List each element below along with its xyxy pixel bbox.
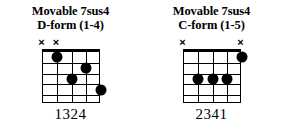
fret-line [184,84,240,85]
chord-title-d-form: Movable 7sus4 D-form (1-4) [32,4,110,32]
finger-dot [95,84,106,95]
muted-string-markers-c-form: ×× [183,38,241,49]
muted-string-x-icon: × [53,37,59,48]
muted-string-x-icon: × [179,37,185,48]
finger-dot [207,74,218,85]
fingering-numbers-d-form: 1324 [34,106,108,122]
chord-grid-wrapper-c-form: ×× [175,38,249,103]
chord-title-line1: Movable 7sus4 [173,4,251,18]
muted-string-x-icon: × [38,37,44,48]
finger-dot [52,52,63,63]
finger-dot [81,63,92,74]
fret-line [184,95,240,96]
chord-title-line2: C-form (1-5) [173,18,251,32]
chord-diagram-d-form: Movable 7sus4 D-form (1-4) ×× 1324 [0,0,141,138]
fretboard-grid-d-form [42,49,100,103]
chord-diagram-sheet: Movable 7sus4 D-form (1-4) ×× 1324 Movab… [0,0,282,138]
muted-string-markers-d-form: ×× [42,38,100,49]
chord-title-c-form: Movable 7sus4 C-form (1-5) [173,4,251,32]
fret-line [43,84,99,85]
fingering-numbers-c-form: 2341 [175,106,249,122]
chord-title-line2: D-form (1-4) [32,18,110,32]
finger-dot [193,74,204,85]
fretboard-grid-c-form [183,49,241,103]
finger-dot [222,74,233,85]
fret-line [43,95,99,96]
finger-dot [66,74,77,85]
fret-line [184,63,240,64]
chord-diagram-c-form: Movable 7sus4 C-form (1-5) ×× 2341 [141,0,282,138]
finger-dot [236,52,247,63]
chord-grid-wrapper-d-form: ×× [34,38,108,103]
muted-string-x-icon: × [237,37,243,48]
chord-title-line1: Movable 7sus4 [32,4,110,18]
